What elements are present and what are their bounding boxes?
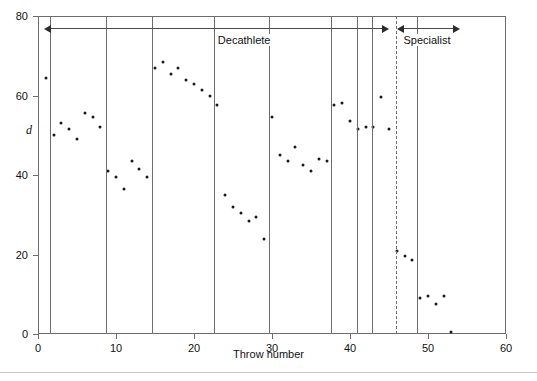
data-point [193, 82, 196, 85]
data-point [364, 126, 367, 129]
data-point [380, 96, 383, 99]
data-point [130, 160, 133, 163]
x-tick-mark [428, 334, 429, 339]
data-point [52, 134, 55, 137]
y-tick-mark [33, 255, 38, 256]
annotation-arrowhead-right [382, 25, 389, 33]
x-tick-mark [350, 334, 351, 339]
data-point [255, 215, 258, 218]
data-point [341, 102, 344, 105]
y-tick-mark [33, 175, 38, 176]
footer-divider [0, 372, 537, 373]
data-point [154, 66, 157, 69]
y-tick-label: 40 [2, 169, 28, 181]
segment-divider-line [372, 16, 373, 334]
data-point [122, 187, 125, 190]
data-point [403, 255, 406, 258]
chart-container: 020406080 0102030405060 d Throw number D… [0, 0, 537, 381]
data-point [185, 78, 188, 81]
segment-divider-line [269, 16, 270, 334]
data-point [161, 60, 164, 63]
x-tick-mark [506, 334, 507, 339]
dashed-divider-line [396, 16, 397, 334]
x-tick-mark [194, 334, 195, 339]
y-tick-label: 80 [2, 10, 28, 22]
x-axis-title: Throw number [0, 348, 537, 360]
data-point [216, 104, 219, 107]
data-point [271, 116, 274, 119]
data-point [263, 237, 266, 240]
data-point [349, 120, 352, 123]
segment-divider-line [417, 16, 418, 334]
data-point [278, 154, 281, 157]
data-point [115, 175, 118, 178]
annotation-arrow-line [403, 28, 454, 29]
y-axis-title: d [26, 123, 32, 138]
annotation-arrowhead-left [397, 25, 404, 33]
data-point [83, 112, 86, 115]
data-point [91, 116, 94, 119]
data-point [294, 146, 297, 149]
data-point [286, 160, 289, 163]
data-point [169, 72, 172, 75]
data-point [333, 104, 336, 107]
data-point [177, 66, 180, 69]
data-point [200, 88, 203, 91]
segment-divider-line [152, 16, 153, 334]
data-point [419, 297, 422, 300]
data-point [411, 259, 414, 262]
data-point [302, 164, 305, 167]
annotation-label-decathlete: Decathlete [216, 34, 273, 46]
x-tick-mark [272, 334, 273, 339]
data-point [60, 122, 63, 125]
y-tick-mark [33, 16, 38, 17]
data-point [442, 295, 445, 298]
segment-divider-line [50, 16, 51, 334]
x-tick-mark [38, 334, 39, 339]
data-point [310, 170, 313, 173]
segment-divider-line [214, 16, 215, 334]
segment-divider-line [331, 16, 332, 334]
data-point [146, 175, 149, 178]
data-point [317, 158, 320, 161]
data-point [107, 170, 110, 173]
y-tick-mark [33, 96, 38, 97]
data-point [434, 303, 437, 306]
data-point [76, 138, 79, 141]
data-point [99, 126, 102, 129]
annotation-arrowhead-left [44, 25, 51, 33]
data-point [44, 76, 47, 79]
y-tick-label: 60 [2, 90, 28, 102]
annotation-arrow-line [50, 28, 383, 29]
plot-area [38, 16, 506, 334]
segment-divider-line [106, 16, 107, 334]
annotation-arrowhead-right [453, 25, 460, 33]
y-tick-label: 20 [2, 249, 28, 261]
data-point [232, 205, 235, 208]
y-tick-label: 0 [2, 328, 28, 340]
x-tick-mark [116, 334, 117, 339]
data-point [247, 219, 250, 222]
data-point [427, 295, 430, 298]
data-point [138, 168, 141, 171]
data-point [224, 193, 227, 196]
data-point [239, 211, 242, 214]
data-point [325, 160, 328, 163]
annotation-label-specialist: Specialist [401, 34, 452, 46]
segment-divider-line [357, 16, 358, 334]
data-point [208, 94, 211, 97]
data-point [68, 128, 71, 131]
data-point [388, 128, 391, 131]
data-point [450, 331, 453, 334]
